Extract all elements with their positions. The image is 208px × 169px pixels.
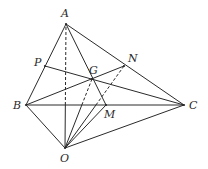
point-B — [25, 104, 27, 106]
diagram-lines — [26, 24, 184, 148]
point-A — [65, 23, 67, 25]
segment-ON-visible — [65, 105, 96, 148]
point-P — [44, 65, 46, 67]
label-M: M — [103, 108, 116, 121]
point-M — [105, 104, 107, 106]
segment-OM — [65, 105, 106, 148]
segment-OA-hidden — [65, 24, 66, 105]
label-C: C — [189, 99, 198, 112]
label-O: O — [60, 152, 69, 165]
label-A: A — [60, 7, 69, 20]
diagram-labels: A B C O P N G M — [12, 7, 198, 165]
segment-BN — [26, 66, 124, 105]
segment-AM — [66, 24, 106, 105]
label-N: N — [127, 52, 138, 65]
point-C — [183, 104, 185, 106]
segment-OG-hidden — [82, 79, 92, 105]
label-B: B — [12, 99, 21, 112]
segment-OG-visible — [65, 105, 82, 148]
segment-CO — [65, 105, 184, 148]
tetrahedron-diagram: A B C O P N G M — [0, 0, 208, 169]
point-O — [64, 147, 66, 149]
segment-BO — [26, 105, 65, 148]
point-G — [91, 78, 93, 80]
label-G: G — [89, 64, 98, 77]
point-N — [123, 65, 125, 67]
label-P: P — [33, 56, 42, 69]
segment-AB — [26, 24, 66, 105]
segment-AC — [66, 24, 184, 105]
